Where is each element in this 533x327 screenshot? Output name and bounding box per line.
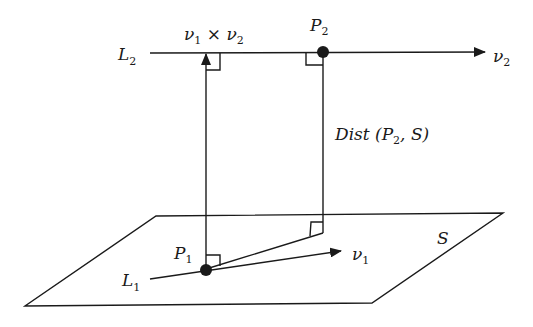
right-angle-marker-top-left	[206, 53, 220, 70]
label-p1: P1	[173, 243, 192, 266]
label-l1: L1	[121, 270, 140, 294]
projection-line	[206, 233, 323, 269]
label-dist: Dist (P2, S)	[334, 124, 429, 147]
label-p2: P2	[309, 15, 328, 38]
label-plane-s: S	[437, 228, 449, 248]
right-angle-marker-p1	[206, 255, 220, 266]
point-p1	[200, 264, 212, 276]
point-p2	[317, 46, 329, 58]
skew-lines-distance-diagram: L2 ν1 × ν2 P2 ν2 Dist (P2, S) S P1 ν1 L1	[0, 0, 533, 327]
label-v1: ν1	[352, 244, 369, 267]
label-cross-product: ν1 × ν2	[184, 24, 244, 47]
label-v2: ν2	[493, 46, 510, 69]
label-l2: L2	[117, 44, 136, 68]
plane-s	[25, 213, 503, 306]
